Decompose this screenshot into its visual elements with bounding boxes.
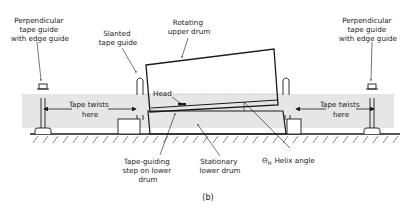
head-label: Head [153, 89, 172, 98]
slanted-guide-label: Slanted tape guide [99, 29, 138, 47]
step-label: Tape-guiding step on lower drum [122, 157, 173, 184]
left-guide-label: Perpendicular tape guide with edge guide [11, 16, 69, 43]
ground [30, 134, 400, 143]
helical-scan-diagram: Perpendicular tape guide with edge guide… [0, 0, 410, 212]
helix-angle-label: ΘHHelix angle [262, 156, 315, 166]
head-icon [178, 103, 186, 106]
right-guide-label: Perpendicular tape guide with edge guide [339, 16, 397, 43]
upper-drum-label: Rotating upper drum [168, 18, 210, 36]
figure-caption: (b) [202, 193, 213, 202]
lower-drum-label: Stationary lower drum [199, 157, 240, 175]
